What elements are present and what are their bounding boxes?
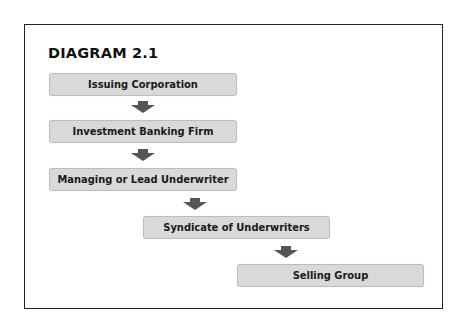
step-investment-banking-firm: Investment Banking Firm (49, 120, 237, 143)
step-managing-lead-underwriter: Managing or Lead Underwriter (49, 168, 237, 191)
step-issuing-corporation: Issuing Corporation (49, 73, 237, 96)
step-syndicate-of-underwriters: Syndicate of Underwriters (143, 216, 330, 239)
diagram-title: DIAGRAM 2.1 (48, 45, 158, 61)
step-selling-group: Selling Group (237, 264, 424, 287)
